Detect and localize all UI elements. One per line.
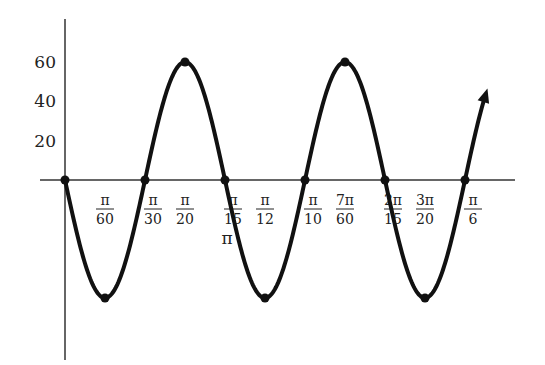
y-tick-label: 60 <box>34 52 56 72</box>
data-point <box>261 294 270 303</box>
data-point <box>181 58 190 67</box>
svg-text:12: 12 <box>256 211 274 227</box>
svg-text:30: 30 <box>144 211 162 227</box>
x-tick-label: 3π20 <box>416 192 434 227</box>
svg-text:60: 60 <box>336 211 354 227</box>
svg-text:π: π <box>260 192 269 208</box>
y-tick-label: 20 <box>34 131 56 151</box>
svg-text:π: π <box>180 192 189 208</box>
chart: 204060 π60π30π20π15π12π107π602π153π20π6π <box>0 0 545 365</box>
data-point <box>141 176 150 185</box>
data-point <box>381 176 390 185</box>
x-tick-label: π30 <box>144 192 162 227</box>
data-point <box>101 294 110 303</box>
data-point <box>461 176 470 185</box>
stray-pi-label: π <box>221 228 232 248</box>
data-point <box>221 176 230 185</box>
arrow-head-icon <box>478 89 489 104</box>
x-tick-label: π6 <box>464 192 482 227</box>
data-point <box>301 176 310 185</box>
x-tick-label: π12 <box>256 192 274 227</box>
svg-text:3π: 3π <box>416 192 434 208</box>
svg-text:π: π <box>468 192 477 208</box>
svg-text:π: π <box>148 192 157 208</box>
svg-text:60: 60 <box>96 211 114 227</box>
svg-text:π: π <box>100 192 109 208</box>
svg-text:10: 10 <box>304 211 322 227</box>
svg-text:20: 20 <box>416 211 434 227</box>
data-point <box>341 58 350 67</box>
svg-text:π: π <box>308 192 317 208</box>
data-point <box>421 294 430 303</box>
svg-text:6: 6 <box>469 211 478 227</box>
svg-text:20: 20 <box>176 211 194 227</box>
y-tick-label: 40 <box>34 91 56 111</box>
x-tick-label: π60 <box>96 192 114 227</box>
x-tick-label: π20 <box>176 192 194 227</box>
x-tick-label: 7π60 <box>336 192 354 227</box>
x-tick-label: π10 <box>304 192 322 227</box>
svg-text:7π: 7π <box>336 192 354 208</box>
data-point <box>61 176 70 185</box>
